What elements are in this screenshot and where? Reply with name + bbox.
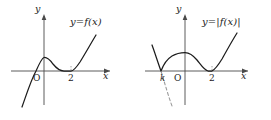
equation-label-f: y=f(x) <box>70 17 102 27</box>
tick-label-k: k <box>160 74 165 83</box>
tick-label-2: 2 <box>68 74 74 83</box>
graph-svg-f <box>0 0 135 120</box>
origin-label: O <box>33 74 40 83</box>
figure-container: y x O 2 y=f(x) y x O k 2 y=|f(x)| <box>0 0 271 120</box>
origin-label: O <box>174 74 181 83</box>
panel-graph-f: y x O 2 y=f(x) <box>0 0 135 120</box>
curve-abs-f-x <box>152 33 237 71</box>
x-axis-label: x <box>103 71 108 81</box>
x-axis-label: x <box>241 71 246 81</box>
y-axis-arrowhead <box>42 14 47 20</box>
tick-label-2: 2 <box>209 74 215 83</box>
equation-label-abs-f: y=|f(x)| <box>202 17 241 27</box>
y-axis-label: y <box>176 4 181 14</box>
panel-graph-abs-f: y x O k 2 y=|f(x)| <box>136 0 271 120</box>
y-axis-label: y <box>35 4 40 14</box>
y-axis-arrowhead <box>183 14 188 20</box>
